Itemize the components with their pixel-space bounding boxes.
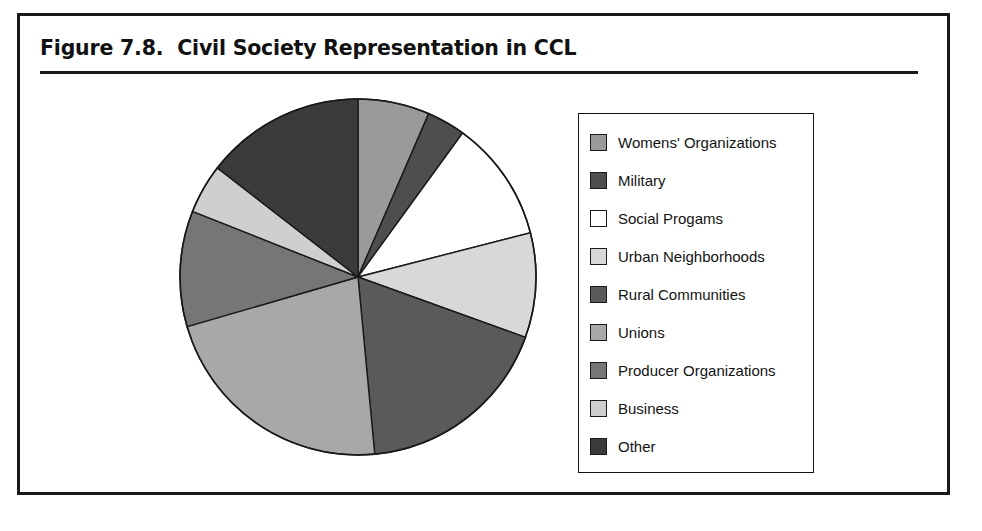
legend-swatch-icon xyxy=(590,362,607,379)
legend-item-label: Business xyxy=(618,400,679,417)
legend-item-label: Other xyxy=(618,438,656,455)
legend-item-label: Rural Communities xyxy=(618,286,746,303)
legend-swatch-icon xyxy=(590,134,607,151)
pie-chart xyxy=(173,92,543,462)
legend-item-label: Military xyxy=(618,172,666,189)
legend-item-label: Producer Organizations xyxy=(618,362,776,379)
legend-item-label: Social Progams xyxy=(618,210,723,227)
figure-frame: Figure 7.8. Civil Society Representation… xyxy=(17,13,950,495)
legend-item[interactable]: Other xyxy=(590,427,813,465)
legend-item[interactable]: Urban Neighborhoods xyxy=(590,237,813,275)
legend-item[interactable]: Rural Communities xyxy=(590,275,813,313)
legend-item[interactable]: Social Progams xyxy=(590,199,813,237)
legend-swatch-icon xyxy=(590,286,607,303)
legend-swatch-icon xyxy=(590,438,607,455)
legend-swatch-icon xyxy=(590,172,607,189)
legend-swatch-icon xyxy=(590,324,607,341)
title-divider xyxy=(40,71,918,74)
pie-chart-svg xyxy=(173,92,543,462)
legend-item[interactable]: Unions xyxy=(590,313,813,351)
legend-item[interactable]: Military xyxy=(590,161,813,199)
legend-item-label: Urban Neighborhoods xyxy=(618,248,765,265)
legend-swatch-icon xyxy=(590,248,607,265)
caption-cutoff xyxy=(22,519,352,531)
figure-title: Figure 7.8. Civil Society Representation… xyxy=(40,36,576,60)
legend-swatch-icon xyxy=(590,400,607,417)
legend-item[interactable]: Business xyxy=(590,389,813,427)
legend-item[interactable]: Womens' Organizations xyxy=(590,123,813,161)
legend-item[interactable]: Producer Organizations xyxy=(590,351,813,389)
legend-swatch-icon xyxy=(590,210,607,227)
chart-legend: Womens' OrganizationsMilitarySocial Prog… xyxy=(578,113,814,473)
legend-item-label: Unions xyxy=(618,324,665,341)
legend-item-label: Womens' Organizations xyxy=(618,134,777,151)
